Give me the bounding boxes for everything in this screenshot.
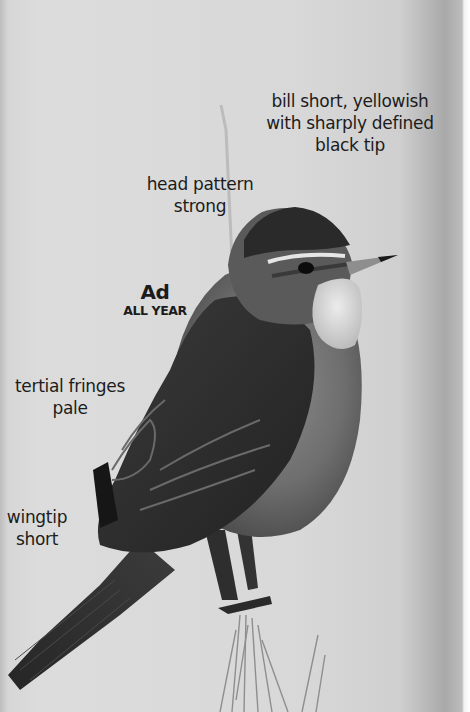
annotation-tertial-line2: pale	[0, 397, 140, 419]
season-label: ALL YEAR	[100, 303, 210, 319]
annotation-head-pattern: head pattern strong	[130, 173, 270, 217]
bird-eye	[298, 262, 314, 274]
annotation-wingtip-line1: wingtip	[4, 506, 70, 528]
bird-tail	[8, 540, 175, 690]
grass-seedhead	[220, 615, 325, 712]
age-code: Ad	[100, 281, 210, 303]
annotation-wingtip-line2: short	[4, 528, 70, 550]
annotation-bill-line1: bill short, yellowish	[250, 90, 450, 112]
annotation-tertial-line1: tertial fringes	[0, 375, 140, 397]
annotation-bill-line3: black tip	[250, 134, 450, 156]
annotation-bill: bill short, yellowish with sharply defin…	[250, 90, 450, 156]
bird-leg	[205, 530, 238, 600]
annotation-bill-line2: with sharply defined	[250, 112, 450, 134]
annotation-wingtip: wingtip short	[4, 506, 70, 550]
annotation-head-line2: strong	[130, 195, 270, 217]
age-label: Ad ALL YEAR	[100, 281, 210, 319]
annotation-tertial-fringes: tertial fringes pale	[0, 375, 140, 419]
field-guide-photo-plate: bill short, yellowish with sharply defin…	[0, 0, 470, 712]
annotation-head-line1: head pattern	[130, 173, 270, 195]
